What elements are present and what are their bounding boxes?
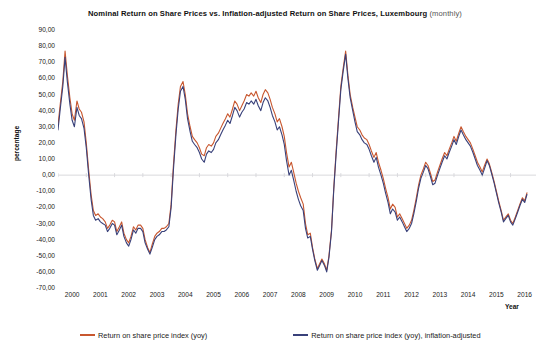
x-tick-label: 2007 [255,291,285,298]
chart-title-main: Nominal Return on Share Prices vs. Infla… [88,9,427,18]
y-tick-label: -30,00 [36,220,55,228]
legend-swatch-nominal [80,334,95,336]
y-tick-label: 70,00 [38,58,55,66]
y-tick-label: 30,00 [38,123,55,131]
y-axis-label: percentage [13,114,20,174]
series-line-nominal [58,51,527,270]
y-tick-label: 20,00 [38,139,55,147]
x-tick-label: 2001 [85,291,115,298]
x-tick-label: 2014 [453,291,483,298]
legend-swatch-inflation-adjusted [293,334,308,336]
chart-title-suffix: (monthly) [429,9,462,18]
x-tick-label: 2003 [142,291,172,298]
x-tick-label: 2004 [170,291,200,298]
x-axis-ticks: 2000200120022003200420052006200720082009… [58,291,536,303]
y-tick-label: -10,00 [36,187,55,195]
y-tick-label: -40,00 [36,236,55,244]
legend-label-nominal: Return on share price index (yoy) [98,331,207,340]
x-tick-label: 2002 [114,291,144,298]
y-tick-label: -20,00 [36,203,55,211]
x-tick-label: 2011 [368,291,398,298]
y-tick-label: 50,00 [38,91,55,99]
x-tick-label: 2016 [510,291,540,298]
legend-item-nominal: Return on share price index (yoy) [80,331,207,340]
series-line-inflation_adjusted [58,54,527,272]
y-tick-label: -50,00 [36,252,55,260]
y-tick-label: 80,00 [38,42,55,50]
page-title: Nominal Return on Share Prices vs. Infla… [0,9,550,18]
x-tick-label: 2012 [397,291,427,298]
y-tick-label: -70,00 [36,284,55,292]
y-tick-label: -60,00 [36,268,55,276]
chart-legend: Return on share price index (yoy) Return… [58,325,536,345]
y-axis-ticks: 90,0080,0070,0060,0050,0040,0030,0020,00… [22,30,55,288]
y-tick-label: 10,00 [38,155,55,163]
y-tick-label: 60,00 [38,74,55,82]
legend-item-inflation-adjusted: Return on share price index (yoy), infla… [293,331,480,340]
x-tick-label: 2009 [312,291,342,298]
x-tick-label: 2013 [425,291,455,298]
y-tick-label: 40,00 [38,107,55,115]
x-tick-label: 2006 [227,291,257,298]
x-tick-label: 2015 [481,291,511,298]
x-tick-label: 2005 [199,291,229,298]
x-tick-label: 2010 [340,291,370,298]
x-tick-label: 2008 [283,291,313,298]
legend-label-inflation-adjusted: Return on share price index (yoy), infla… [311,331,480,340]
x-axis-label: Year [505,303,519,310]
x-tick-label: 2000 [57,291,87,298]
y-tick-label: 90,00 [38,26,55,34]
plot-area [58,30,536,288]
chart-canvas [58,30,536,288]
y-tick-label: 0,00 [42,171,55,179]
